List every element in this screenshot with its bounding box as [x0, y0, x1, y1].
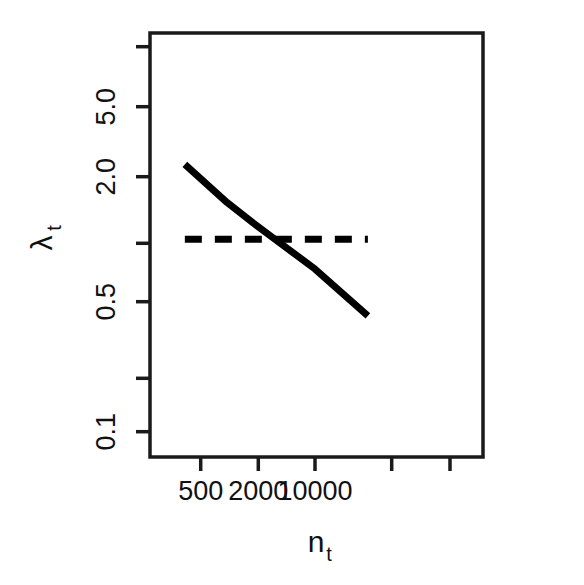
plot-canvas: 5.0 2.0 0.5 0.1 500 2000 10000 λ t n t [0, 0, 584, 585]
y-tick-label-5.0: 5.0 [91, 88, 121, 126]
x-axis-tick-labels: 500 2000 10000 [178, 476, 352, 506]
y-tick-label-2.0: 2.0 [91, 158, 121, 196]
x-axis-title-main: n [308, 525, 325, 558]
y-axis-title-main: λ [25, 236, 58, 251]
x-tick-label-500: 500 [178, 476, 223, 506]
x-axis-title-subscript: t [326, 543, 332, 565]
chart-figure: 5.0 2.0 0.5 0.1 500 2000 10000 λ t n t [0, 0, 584, 585]
y-axis-title-subscript: t [43, 225, 65, 231]
y-tick-label-0.1: 0.1 [91, 413, 121, 451]
x-tick-label-10000: 10000 [277, 476, 352, 506]
y-tick-label-0.5: 0.5 [91, 283, 121, 321]
